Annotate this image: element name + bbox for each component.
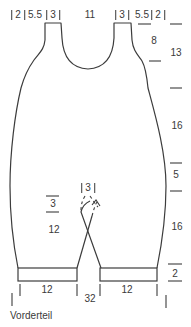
left-cuff [18, 268, 77, 281]
measure-neck-width: 11 [85, 10, 95, 20]
piece-caption: Vorderteil [10, 311, 52, 321]
measure-leg-length: 16 [171, 222, 182, 232]
measure-left-shoulder: 5.5 [28, 10, 42, 20]
right-inner-leg-line [81, 201, 101, 268]
pattern-diagram: 2 5.5 3 11 3 5.5 2 8 13 16 5 16 2 3 12 3… [0, 0, 191, 327]
measure-top-right-edge: 2 [151, 10, 165, 20]
measure-body-length: 16 [171, 121, 182, 131]
measure-right-strap: 3 [115, 10, 129, 20]
measure-right-shoulder: 5.5 [135, 10, 149, 20]
measure-crotch-bindoff: 3 [81, 183, 95, 193]
crotch-dashed-line-left [81, 196, 85, 211]
measure-leg-12: 12 [48, 225, 59, 235]
measure-leg-decrease: 3 [50, 199, 56, 209]
measure-left-cuff-width: 12 [41, 285, 52, 295]
measure-cuff-height: 2 [172, 269, 178, 279]
right-cuff [100, 268, 157, 281]
measure-crotch-depth: 5 [173, 170, 179, 180]
measure-right-cuff-width: 12 [121, 285, 132, 295]
measurement-ticks [12, 24, 182, 308]
measure-left-strap: 3 [46, 10, 60, 20]
measure-armhole-depth: 13 [170, 48, 181, 58]
crotch-lines [77, 196, 101, 268]
measure-total-width: 32 [84, 294, 95, 304]
measure-top-left-edge: 2 [11, 10, 25, 20]
measure-strap-height: 8 [151, 36, 157, 46]
left-inner-leg-line [77, 216, 92, 268]
pattern-drawing [0, 0, 191, 327]
